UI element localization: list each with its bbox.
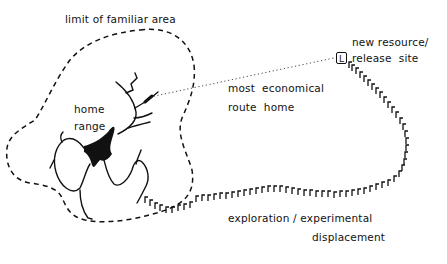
home-range-label-2: range xyxy=(74,121,106,132)
track-hook-mark xyxy=(150,200,153,206)
economical-route-label-2: route home xyxy=(228,102,294,113)
track-hook-mark xyxy=(368,80,371,86)
track-hook-mark xyxy=(400,118,403,124)
track-hook-mark xyxy=(380,92,383,98)
track-hook-mark xyxy=(145,197,148,203)
track-hook-mark xyxy=(256,188,259,194)
track-hook-mark xyxy=(334,192,337,198)
track-hook-mark xyxy=(370,186,373,192)
track-hook-mark xyxy=(178,205,181,211)
track-hook-mark xyxy=(232,192,235,198)
track-hook-mark xyxy=(172,207,175,213)
track-hook-mark xyxy=(226,193,229,199)
resource-site-label-2: release site xyxy=(352,53,419,64)
track-hook-mark xyxy=(352,65,355,71)
track-hook-mark xyxy=(376,184,379,190)
track-hook-mark xyxy=(394,176,397,182)
track-hook-mark xyxy=(155,203,158,209)
home-range-core xyxy=(84,127,115,167)
track-hook-mark xyxy=(405,152,408,158)
track-hook-mark xyxy=(356,68,359,74)
track-hook-mark xyxy=(274,186,277,192)
homing-diagram: limit of familiar area home range most e… xyxy=(0,0,447,264)
track-hook-mark xyxy=(358,189,361,195)
track-hook-mark xyxy=(399,171,402,177)
track-hook-mark xyxy=(382,182,385,188)
track-hook-mark xyxy=(286,187,289,193)
track-hook-mark xyxy=(364,76,367,82)
track-hook-mark xyxy=(328,191,331,197)
track-hook-mark xyxy=(250,189,253,195)
track-hook-mark xyxy=(244,190,247,196)
track-hook-mark xyxy=(280,186,283,192)
track-hook-mark xyxy=(322,191,325,197)
track-hook-mark xyxy=(352,190,355,196)
track-hook-mark xyxy=(304,190,307,196)
track-hook-mark xyxy=(388,102,391,108)
release-site-marker-icon: L xyxy=(336,52,347,64)
track-hook-mark xyxy=(262,187,265,193)
track-hook-mark xyxy=(298,189,301,195)
track-hook-mark xyxy=(346,191,349,197)
track-hook-mark xyxy=(384,97,387,103)
track-hook-mark xyxy=(208,195,211,201)
track-hook-mark xyxy=(364,188,367,194)
track-hook-mark xyxy=(403,124,406,130)
track-hook-mark xyxy=(292,188,295,194)
track-hook-mark xyxy=(388,180,391,186)
track-hook-mark xyxy=(316,191,319,197)
track-hook-mark xyxy=(238,191,241,197)
track-hook-mark xyxy=(190,202,193,208)
track-hook-mark xyxy=(166,207,169,213)
track-hook-mark xyxy=(406,145,409,151)
track-hook-mark xyxy=(392,107,395,113)
economical-route-label-1: most economical xyxy=(228,83,324,94)
track-hook-mark xyxy=(405,131,408,137)
track-hook-mark xyxy=(202,195,205,201)
track-hook-mark xyxy=(402,165,405,171)
track-hook-mark xyxy=(376,88,379,94)
track-hook-mark xyxy=(396,112,399,118)
track-hook-mark xyxy=(268,186,271,192)
track-hook-mark xyxy=(310,190,313,196)
exploration-label-2: displacement xyxy=(312,232,385,243)
track-hook-mark xyxy=(214,194,217,200)
resource-site-label-1: new resource/ xyxy=(352,37,429,48)
track-hook-mark xyxy=(196,196,199,202)
exploration-label-1: exploration / experimental xyxy=(228,213,372,224)
track-hook-mark xyxy=(184,204,187,210)
familiar-area-label: limit of familiar area xyxy=(65,14,176,25)
track-hook-mark xyxy=(220,193,223,199)
track-hook-mark xyxy=(372,84,375,90)
track-hook-mark xyxy=(406,138,409,144)
home-range-label-1: home xyxy=(74,104,105,115)
track-hook-mark xyxy=(360,72,363,78)
track-hook-mark xyxy=(404,159,407,165)
track-hook-mark xyxy=(160,205,163,211)
track-hook-mark xyxy=(340,191,343,197)
